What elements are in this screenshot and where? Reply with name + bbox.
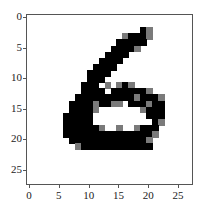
y-tick-mark <box>23 139 26 140</box>
y-tick-label: 10 <box>2 71 22 83</box>
pixel-cell <box>134 46 141 53</box>
x-tick-label: 20 <box>138 189 158 201</box>
y-tick-mark <box>23 109 26 110</box>
pixel-cell <box>116 58 123 65</box>
x-tick-label: 10 <box>79 189 99 201</box>
pixel-cell <box>93 107 100 114</box>
x-tick-mark <box>29 185 30 188</box>
y-tick-label: 0 <box>2 10 22 22</box>
y-tick-label: 20 <box>2 132 22 144</box>
pixel-cell <box>111 64 118 71</box>
x-tick-label: 5 <box>49 189 69 201</box>
x-tick-mark <box>59 185 60 188</box>
y-tick-label: 5 <box>2 41 22 53</box>
x-tick-mark <box>148 185 149 188</box>
y-tick-mark <box>23 78 26 79</box>
y-tick-label: 25 <box>2 163 22 175</box>
x-tick-label: 0 <box>19 189 39 201</box>
digit-image <box>27 15 192 184</box>
y-tick-mark <box>23 48 26 49</box>
y-tick-label: 15 <box>2 102 22 114</box>
x-tick-mark <box>89 185 90 188</box>
pixel-cell <box>146 33 153 40</box>
pixel-cell <box>158 119 165 126</box>
x-tick-mark <box>178 185 179 188</box>
x-tick-label: 15 <box>108 189 128 201</box>
pixel-cell <box>152 131 159 138</box>
x-tick-label: 25 <box>168 189 188 201</box>
pixel-cell <box>122 52 129 59</box>
pixel-cell <box>116 101 123 108</box>
pixel-cell <box>146 143 153 150</box>
pixel-cell <box>105 70 112 77</box>
pixel-cell <box>140 39 147 46</box>
x-tick-mark <box>118 185 119 188</box>
y-tick-mark <box>23 17 26 18</box>
image-plot-area <box>26 14 193 185</box>
y-tick-mark <box>23 170 26 171</box>
